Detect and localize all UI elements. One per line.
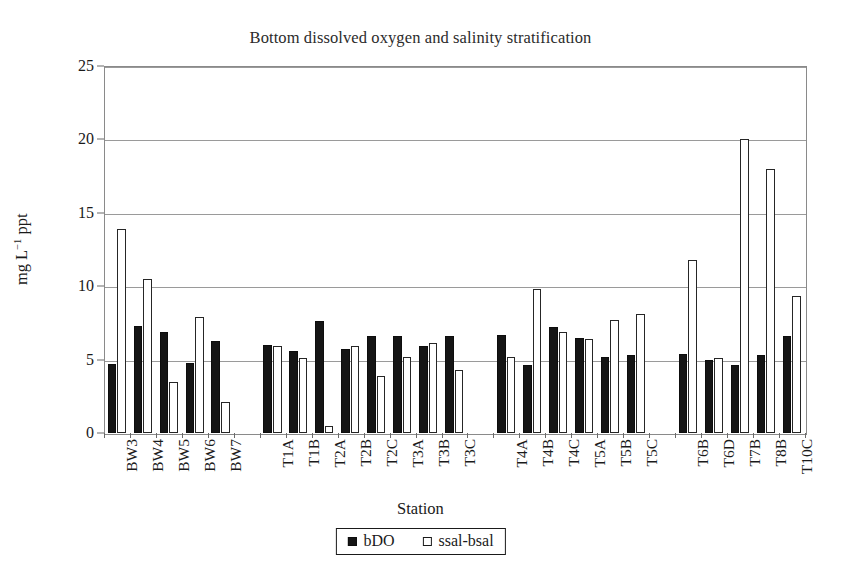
bar-group <box>338 66 364 433</box>
bar-group <box>597 66 623 433</box>
bar-bdo <box>341 349 350 433</box>
legend-label: bDO <box>363 532 394 550</box>
bar-ssal-bsal <box>325 426 334 433</box>
bar-ssal-bsal <box>533 289 542 433</box>
x-tick-mark <box>623 433 624 438</box>
x-tick-label: BW3 <box>124 439 140 472</box>
bar-ssal-bsal <box>740 139 749 433</box>
x-tick-label: T7B <box>747 439 763 467</box>
bar-bdo <box>393 336 402 433</box>
bar-ssal-bsal <box>507 357 516 433</box>
x-tick-label: T3B <box>436 439 452 467</box>
x-tick-mark <box>597 433 598 438</box>
bars-layer <box>104 66 805 433</box>
bar-group <box>675 66 701 433</box>
bar-bdo <box>731 365 740 433</box>
bar-group <box>312 66 338 433</box>
x-tick-mark <box>727 433 728 438</box>
bar-ssal-bsal <box>221 402 230 433</box>
bar-ssal-bsal <box>377 376 386 433</box>
bar-group <box>390 66 416 433</box>
bar-bdo <box>445 336 454 433</box>
bar-group <box>545 66 571 433</box>
x-tick-label: T4B <box>540 439 556 467</box>
bar-group <box>208 66 234 433</box>
x-tick-label: T8B <box>773 439 789 467</box>
bar-group <box>182 66 208 433</box>
x-tick-mark <box>156 433 157 438</box>
x-tick-mark <box>779 433 780 438</box>
bar-bdo <box>367 336 376 433</box>
x-tick-mark <box>545 433 546 438</box>
x-tick-mark <box>416 433 417 438</box>
x-tick-mark <box>519 433 520 438</box>
x-tick-mark <box>467 433 468 438</box>
x-tick-mark <box>104 433 105 438</box>
bar-ssal-bsal <box>766 169 775 433</box>
y-tick-label: 10 <box>78 277 94 295</box>
bar-ssal-bsal <box>559 332 568 433</box>
x-tick-label: T3A <box>410 439 426 467</box>
bar-bdo <box>523 365 532 433</box>
bar-group <box>130 66 156 433</box>
bar-bdo <box>757 355 766 433</box>
y-tick-label: 5 <box>86 351 94 369</box>
bar-bdo <box>783 336 792 433</box>
x-tick-mark <box>442 433 443 438</box>
bar-group <box>727 66 753 433</box>
x-axis-labels: BW3BW4BW5BW6BW7T1AT1BT2AT2BT2CT3AT3BT3CT… <box>104 439 805 497</box>
x-tick-mark <box>390 433 391 438</box>
bar-bdo <box>315 321 324 433</box>
open-square-icon <box>423 537 432 546</box>
x-tick-mark <box>208 433 209 438</box>
x-tick-label: T3C <box>462 439 478 467</box>
x-tick-label: T6D <box>721 439 737 467</box>
bar-ssal-bsal <box>429 343 438 433</box>
x-tick-mark <box>364 433 365 438</box>
bar-bdo <box>679 354 688 433</box>
x-tick-mark <box>649 433 650 438</box>
bar-bdo <box>186 363 195 433</box>
x-tick-label: T2B <box>358 439 374 467</box>
bar-bdo <box>263 345 272 433</box>
bar-bdo <box>160 332 169 433</box>
x-tick-label: T5B <box>618 439 634 467</box>
x-tick-mark <box>234 433 235 438</box>
bar-ssal-bsal <box>117 229 126 433</box>
bar-group <box>286 66 312 433</box>
y-tick-mark <box>97 433 104 434</box>
x-tick-mark <box>493 433 494 438</box>
x-tick-label: T5C <box>644 439 660 467</box>
y-tick-mark <box>97 139 104 140</box>
y-tick-mark <box>97 212 104 213</box>
x-tick-label: T5A <box>592 439 608 467</box>
bar-ssal-bsal <box>299 358 308 433</box>
bar-group <box>571 66 597 433</box>
x-tick-mark <box>338 433 339 438</box>
bar-group <box>623 66 649 433</box>
y-axis: 0510152025 <box>56 66 104 433</box>
bar-bdo <box>497 335 506 433</box>
x-tick-label: T1A <box>280 439 296 467</box>
x-tick-label: T2C <box>384 439 400 467</box>
bar-group <box>519 66 545 433</box>
x-tick-label: T2A <box>332 439 348 467</box>
bar-bdo <box>705 360 714 433</box>
bar-group <box>416 66 442 433</box>
bar-ssal-bsal <box>195 317 204 433</box>
bar-group <box>753 66 779 433</box>
x-tick-label: BW6 <box>202 439 218 472</box>
bar-bdo <box>419 346 428 433</box>
bar-bdo <box>575 338 584 433</box>
y-axis-title: mg L−1 ppt <box>10 66 34 433</box>
bar-bdo <box>549 327 558 433</box>
y-tick-label: 0 <box>86 424 94 442</box>
bar-ssal-bsal <box>403 357 412 433</box>
bar-bdo <box>601 357 610 433</box>
bar-bdo <box>108 364 117 433</box>
x-tick-label: BW7 <box>228 439 244 472</box>
x-tick-mark <box>312 433 313 438</box>
x-tick-mark <box>571 433 572 438</box>
x-tick-mark <box>260 433 261 438</box>
bar-group <box>701 66 727 433</box>
